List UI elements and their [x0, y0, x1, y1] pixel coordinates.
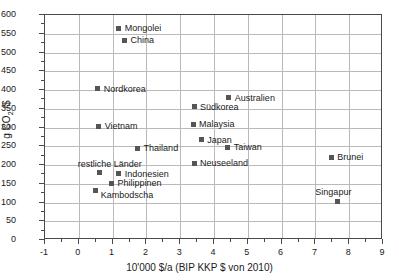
x-tick-label: 7 [299, 248, 329, 257]
y-tick-label: 100 [0, 198, 16, 207]
x-tick-label: 3 [164, 248, 194, 257]
y-tick-label: 400 [0, 85, 16, 94]
y-tick-label: 500 [0, 48, 16, 57]
data-point-marker[interactable] [226, 95, 231, 100]
x-tick-mark-minor [95, 239, 96, 242]
x-tick-label: 8 [333, 248, 363, 257]
data-point-label: Philippinen [118, 179, 162, 188]
data-point-label: China [130, 36, 154, 45]
gridline-horizontal [45, 221, 381, 222]
gridline-horizontal [45, 53, 381, 54]
x-tick-label: 1 [97, 248, 127, 257]
x-tick-mark [44, 239, 45, 244]
y-tick-label: 250 [0, 141, 16, 150]
gridline-vertical [349, 15, 350, 238]
gridline-horizontal [45, 71, 381, 72]
x-tick-label: 5 [232, 248, 262, 257]
data-point-marker[interactable] [96, 124, 101, 129]
data-point-marker[interactable] [109, 181, 114, 186]
y-tick-label: 350 [0, 104, 16, 113]
gridline-vertical [180, 15, 181, 238]
x-tick-mark [247, 239, 248, 244]
x-tick-label: 6 [266, 248, 296, 257]
gridline-vertical [248, 15, 249, 238]
y-tick-label: 50 [0, 216, 16, 225]
data-point-marker[interactable] [335, 199, 340, 204]
x-axis-title: 10'000 $/a (BIP KKP $ von 2010) [0, 262, 399, 273]
data-point-marker[interactable] [192, 161, 197, 166]
data-point-marker[interactable] [95, 86, 100, 91]
x-tick-mark-minor [298, 239, 299, 242]
data-point-label: Südkorea [200, 103, 239, 112]
gridline-vertical [146, 15, 147, 238]
x-tick-label: 2 [130, 248, 160, 257]
data-point-label: Mongolei [125, 24, 162, 33]
data-point-marker[interactable] [116, 171, 121, 176]
x-tick-mark [179, 239, 180, 244]
x-tick-mark-minor [331, 239, 332, 242]
y-tick-label: 600 [0, 10, 16, 19]
y-tick-label: 0 [0, 235, 16, 244]
data-point-marker[interactable] [122, 38, 127, 43]
data-point-marker[interactable] [192, 104, 197, 109]
x-tick-mark-minor [61, 239, 62, 242]
x-tick-label: 4 [198, 248, 228, 257]
x-tick-mark [348, 239, 349, 244]
gridline-horizontal [45, 184, 381, 185]
data-point-label: Malaysia [199, 120, 235, 129]
data-point-label: Indonesien [125, 170, 169, 179]
data-point-label: Brunei [337, 153, 363, 162]
data-point-label: Australien [235, 94, 275, 103]
data-point-marker[interactable] [199, 137, 204, 142]
gridline-vertical [282, 15, 283, 238]
data-point-marker[interactable] [225, 145, 230, 150]
gridline-vertical [315, 15, 316, 238]
x-tick-mark-minor [230, 239, 231, 242]
x-tick-mark-minor [129, 239, 130, 242]
data-point-label: Neuseeland [200, 159, 248, 168]
x-tick-mark [145, 239, 146, 244]
data-point-marker[interactable] [93, 188, 98, 193]
x-tick-mark [382, 239, 383, 244]
data-point-marker[interactable] [329, 155, 334, 160]
y-tick-label: 550 [0, 29, 16, 38]
x-tick-mark [112, 239, 113, 244]
data-point-label: Japan [207, 136, 232, 145]
y-tick-label: 150 [0, 179, 16, 188]
x-tick-mark [314, 239, 315, 244]
x-tick-mark [213, 239, 214, 244]
gridline-vertical [79, 15, 80, 238]
y-tick-label: 300 [0, 123, 16, 132]
x-tick-mark-minor [196, 239, 197, 242]
data-point-label: restliche Länder [78, 160, 142, 169]
x-tick-label: -1 [29, 248, 59, 257]
data-point-marker[interactable] [97, 170, 102, 175]
chart-root: g CO2 /$ 10'000 $/a (BIP KKP $ von 2010)… [0, 0, 399, 280]
gridline-horizontal [45, 146, 381, 147]
y-tick-label: 200 [0, 160, 16, 169]
x-tick-label: 9 [367, 248, 397, 257]
x-tick-mark-minor [264, 239, 265, 242]
y-tick-label: 450 [0, 66, 16, 75]
data-point-marker[interactable] [116, 26, 121, 31]
plot-area: MongoleiChinaNordkoreaAustralienSüdkorea… [44, 14, 382, 239]
data-point-marker[interactable] [191, 122, 196, 127]
x-tick-mark-minor [162, 239, 163, 242]
gridline-horizontal [45, 203, 381, 204]
data-point-label: Thailand [144, 144, 179, 153]
gridline-horizontal [45, 34, 381, 35]
x-tick-label: 0 [63, 248, 93, 257]
x-tick-mark [78, 239, 79, 244]
x-tick-mark [281, 239, 282, 244]
data-point-label: Singapur [315, 188, 351, 197]
data-point-label: Nordkorea [104, 85, 146, 94]
data-point-label: Vietnam [105, 122, 138, 131]
data-point-label: Kambodscha [101, 191, 154, 200]
data-point-marker[interactable] [135, 146, 140, 151]
data-point-label: Taiwan [234, 143, 262, 152]
x-tick-mark-minor [365, 239, 366, 242]
